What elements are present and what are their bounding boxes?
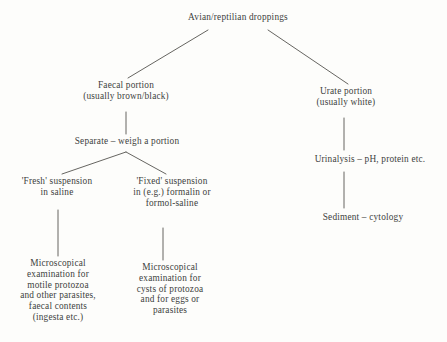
node-faecal-portion: Faecal portion (usually brown/black)	[60, 80, 192, 102]
flowchart-diagram: Avian/reptilian droppings Faecal portion…	[0, 0, 447, 342]
edge-root-to-urate	[268, 30, 348, 84]
node-separate-weigh: Separate – weigh a portion	[62, 136, 192, 147]
edge-separate-to-fixed	[126, 152, 166, 174]
edge-separate-to-fresh	[62, 152, 126, 174]
node-fresh-suspension: 'Fresh' suspension in saline	[2, 176, 112, 198]
node-fixed-suspension: 'Fixed' suspension in (e.g.) formalin or…	[112, 176, 232, 208]
node-sediment-cytology: Sediment – cytology	[300, 212, 426, 223]
node-root: Avian/reptilian droppings	[148, 12, 328, 23]
node-urate-portion: Urate portion (usually white)	[292, 86, 400, 108]
node-microscopical-motile-protozoa: Microscopical examination for motile pro…	[4, 258, 112, 323]
node-urinalysis: Urinalysis – pH, protein etc.	[296, 154, 444, 165]
edge-root-to-faecal	[128, 30, 208, 78]
node-microscopical-cysts-protozoa: Microscopical examination for cysts of p…	[114, 262, 226, 316]
